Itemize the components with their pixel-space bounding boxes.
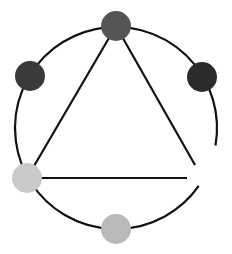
node-lower-left (12, 163, 42, 193)
triangle-edge-2 (116, 26, 195, 165)
triangle-edge-1 (27, 26, 116, 178)
nodes (12, 11, 217, 244)
circle-triangle-diagram (0, 0, 232, 254)
node-upper-right (187, 62, 217, 92)
node-bottom (101, 214, 131, 244)
outer-circle (15, 27, 217, 229)
node-top (101, 11, 131, 41)
node-upper-left (15, 61, 45, 91)
